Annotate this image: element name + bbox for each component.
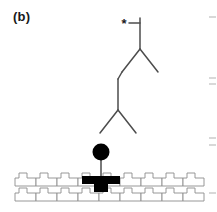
bond-upper-branch-left <box>122 49 140 72</box>
schematic-diagram: * <box>0 0 217 212</box>
molecular-chain-group <box>100 18 158 181</box>
bond-upper-branch-right <box>140 49 158 72</box>
bond-lower-branch-right <box>118 110 136 133</box>
bond-lower-branch-left <box>100 110 118 133</box>
asterisk-marker-icon: * <box>121 16 127 31</box>
cropped-axis-ticks <box>209 17 216 193</box>
figure-panel-b: (b) <box>0 0 217 212</box>
substrate-row-bottom <box>15 188 204 201</box>
filled-circle-head-icon <box>93 144 110 161</box>
bond-link-segment <box>118 72 122 79</box>
